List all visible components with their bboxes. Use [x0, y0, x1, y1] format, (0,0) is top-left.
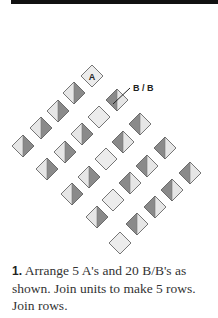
unit-bb [154, 137, 176, 159]
unit-bb [63, 82, 85, 104]
unit-bb [71, 123, 93, 145]
unit-a [95, 148, 117, 170]
row-3 [61, 113, 151, 205]
unit-bb [78, 166, 100, 188]
unit-bb [161, 179, 183, 201]
unit-bb [12, 135, 34, 157]
unit-bb [54, 141, 76, 163]
instruction-caption: 1. Arrange 5 A's and 20 B/B's as shown. … [12, 262, 212, 314]
unit-a [88, 106, 110, 128]
unit-bb [36, 158, 58, 180]
unit-bb [112, 131, 134, 153]
unit-bb [144, 196, 166, 218]
unit-bb [47, 100, 69, 122]
step-number: 1. [12, 264, 22, 278]
step-text: Arrange 5 A's and 20 B/B's as shown. Joi… [12, 263, 196, 313]
unit-a [102, 189, 124, 211]
unit-grid [12, 65, 201, 254]
quilt-layout-diagram: AB / B [0, 0, 218, 260]
row-4 [86, 137, 176, 228]
row-5 [109, 162, 201, 254]
unit-bb-callout-label: B / B [133, 83, 154, 93]
unit-bb [61, 183, 83, 205]
unit-bb [86, 206, 108, 228]
unit-bb [136, 155, 158, 177]
unit-bb [119, 172, 141, 194]
unit-bb [129, 113, 151, 135]
unit-bb [30, 117, 52, 139]
unit-bb [126, 213, 148, 235]
unit-a-label: A [89, 72, 96, 82]
unit-a [109, 232, 131, 254]
unit-bb [179, 162, 201, 184]
